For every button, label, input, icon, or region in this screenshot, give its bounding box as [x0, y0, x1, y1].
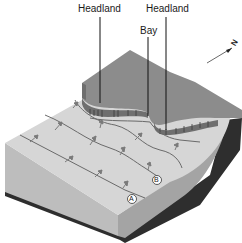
label-bay: Bay — [140, 26, 157, 36]
north-arrow-icon — [207, 48, 232, 63]
coastline-block-diagram — [0, 0, 242, 243]
point-b-label: B — [154, 176, 159, 183]
point-a-label: A — [129, 195, 134, 202]
label-headland-right: Headland — [146, 4, 189, 14]
cliff-west-edge — [82, 83, 86, 100]
label-headland-left: Headland — [78, 4, 121, 14]
